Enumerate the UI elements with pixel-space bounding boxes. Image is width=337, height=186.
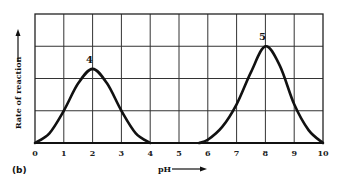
x-axis-label-group: pH <box>158 164 207 174</box>
peak-label-4: 4 <box>86 54 93 65</box>
x-tick-labels: 012345678910 <box>32 148 329 158</box>
curve-5 <box>199 46 323 143</box>
x-tick-label: 3 <box>119 148 125 158</box>
y-axis-arrowhead-icon <box>16 29 21 36</box>
x-tick-label: 1 <box>61 148 67 158</box>
x-tick-label: 0 <box>32 148 38 158</box>
x-axis-arrowhead-icon <box>200 167 207 172</box>
x-axis-label: pH <box>158 164 172 174</box>
x-tick-label: 5 <box>176 148 182 158</box>
panel-label: (b) <box>12 165 27 175</box>
grid-lines <box>35 14 323 143</box>
y-axis-label: Rate of reaction <box>13 56 23 129</box>
x-tick-label: 8 <box>263 148 269 158</box>
x-tick-label: 2 <box>90 148 96 158</box>
x-tick-label: 9 <box>291 148 297 158</box>
x-tick-label: 4 <box>147 148 153 158</box>
x-tick-label: 10 <box>317 148 329 158</box>
x-tick-label: 6 <box>205 148 211 158</box>
peak-label-5: 5 <box>259 31 266 42</box>
chart: 012345678910 45 Rate of reaction pH (b) <box>0 0 337 186</box>
y-axis-label-group: Rate of reaction <box>13 29 23 129</box>
x-tick-label: 7 <box>234 148 240 158</box>
peak-labels: 45 <box>86 31 266 65</box>
